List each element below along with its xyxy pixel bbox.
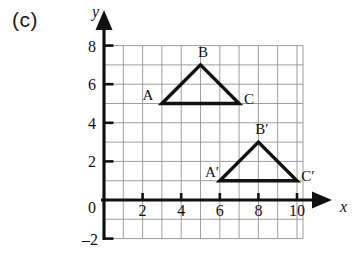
origin-label: 0 bbox=[88, 199, 96, 216]
y-axis-label: y bbox=[90, 3, 100, 21]
x-tick-label-2: 2 bbox=[139, 202, 147, 219]
y-tick-label-6: 6 bbox=[88, 76, 96, 93]
x-axis-arrow bbox=[312, 192, 332, 209]
x-axis-label: x bbox=[339, 198, 347, 215]
vertex-label-b-prime: B′ bbox=[255, 121, 268, 137]
vertex-label-a: A bbox=[143, 87, 154, 103]
vertex-label-a-prime: A′ bbox=[205, 164, 219, 180]
vertex-label-b: B bbox=[198, 44, 208, 60]
grid-lines bbox=[104, 46, 303, 239]
x-tick-label-4: 4 bbox=[177, 202, 185, 219]
y-tick-label-4: 4 bbox=[88, 115, 96, 132]
figure-panel: (c) bbox=[0, 0, 362, 258]
x-tick-label-8: 8 bbox=[254, 202, 262, 219]
y-tick-label-negative-2: –2 bbox=[81, 231, 98, 248]
y-tick-label-8: 8 bbox=[88, 38, 96, 55]
vertex-label-c-prime: C′ bbox=[301, 168, 314, 184]
vertex-label-c: C bbox=[244, 91, 254, 107]
y-tick-label-2: 2 bbox=[88, 153, 96, 170]
coordinate-plane: 8 6 4 2 –2 0 2 4 6 8 10 y x A B C A′ B′ … bbox=[0, 0, 362, 258]
x-tick-label-10: 10 bbox=[289, 202, 305, 219]
x-tick-label-6: 6 bbox=[216, 202, 224, 219]
part-label: (c) bbox=[12, 8, 38, 32]
axis-lines bbox=[101, 22, 320, 240]
